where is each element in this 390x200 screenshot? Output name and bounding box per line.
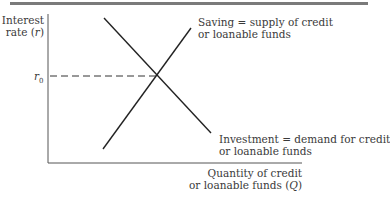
y-axis-label: Interest rate (r) [0, 14, 44, 38]
investment-label: Investment = demand for credit or loanab… [219, 133, 390, 157]
x-axis-label: Quantity of credit or loanable funds (Q) [180, 167, 302, 191]
saving-supply-curve [103, 28, 191, 149]
saving-label: Saving = supply of credit or loanable fu… [198, 16, 333, 40]
r0-label: r0 [34, 70, 44, 87]
